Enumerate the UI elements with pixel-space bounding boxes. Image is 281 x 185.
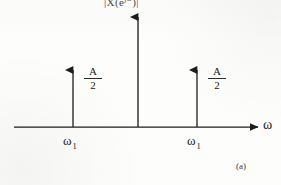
top-label-exponent: jω — [124, 0, 132, 3]
tick-left-base: ω — [63, 133, 72, 148]
amplitude-right-numerator: A — [208, 66, 226, 77]
spectrum-magnitude-label: |X(ejω)| — [104, 0, 139, 8]
top-label-suffix: )| — [132, 0, 139, 8]
amplitude-label-left: A 2 — [84, 66, 102, 91]
spectrum-plot — [0, 0, 281, 185]
amplitude-left-numerator: A — [84, 66, 102, 77]
tick-right-base: ω — [187, 133, 196, 148]
tick-left-subscript: 1 — [72, 141, 77, 151]
amplitude-left-denominator: 2 — [84, 80, 102, 91]
amplitude-right-denominator: 2 — [208, 80, 226, 91]
axis-variable-label: ω — [263, 118, 272, 132]
figure-caption: (a) — [236, 162, 246, 171]
amplitude-label-right: A 2 — [208, 66, 226, 91]
tick-label-negative-omega1: ω1 — [63, 133, 77, 151]
figure-canvas: |X(ejω)| ω ω1 ω1 A 2 A 2 (a) — [0, 0, 281, 185]
top-label-prefix: |X(e — [104, 0, 124, 8]
tick-right-subscript: 1 — [196, 141, 201, 151]
tick-label-positive-omega1: ω1 — [187, 133, 201, 151]
